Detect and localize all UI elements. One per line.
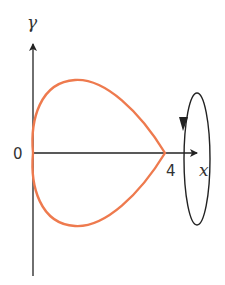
x-axis-label: x (199, 160, 209, 180)
diagram-canvas: γ 0 4 x (0, 0, 225, 285)
y-axis-label: γ (27, 12, 38, 32)
rotation-ellipse (184, 93, 210, 225)
x-tick-label-4: 4 (166, 162, 176, 180)
origin-label: 0 (13, 145, 23, 163)
